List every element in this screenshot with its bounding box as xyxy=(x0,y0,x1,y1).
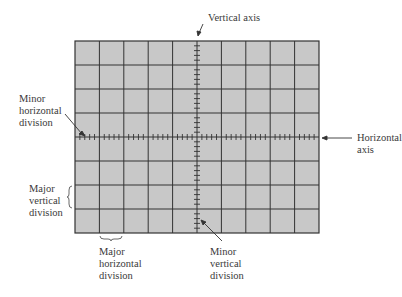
vertical-axis-label: Vertical axis xyxy=(208,12,260,24)
minor-vertical-division-label: Minor vertical division xyxy=(210,246,244,282)
horizontal-axis-label: Horizontal axis xyxy=(357,132,402,156)
major-vertical-brace xyxy=(67,186,72,208)
major-horizontal-brace xyxy=(100,236,122,241)
major-vertical-division-label: Major vertical division xyxy=(29,183,63,219)
minor-horizontal-division-label: Minor horizontal division xyxy=(19,93,62,129)
major-horizontal-division-label: Major horizontal division xyxy=(99,246,142,282)
